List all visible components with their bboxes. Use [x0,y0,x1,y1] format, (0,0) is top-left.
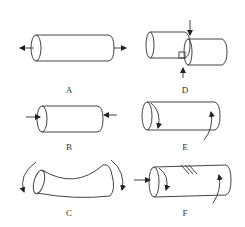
curved-arrow-back-icon [213,175,220,203]
panel-b-compression [26,106,117,132]
panel-f-combined [134,165,231,203]
label-a: A [66,85,73,95]
panel-c-bending [23,160,123,197]
label-b: B [66,142,72,152]
panel-a-tension [20,35,126,61]
panel-d-shear [146,20,227,78]
curved-arrow-front-icon [159,168,167,190]
label-f: F [182,208,187,218]
curved-arrow-back-icon [204,112,212,140]
loading-diagram: A B C D E F [0,0,245,227]
panel-e-torsion [142,102,220,140]
label-d: D [182,85,189,95]
curved-arrow-right-icon [111,160,123,190]
label-e: E [182,142,188,152]
curved-arrow-left-icon [23,162,37,192]
label-c: C [66,208,72,218]
